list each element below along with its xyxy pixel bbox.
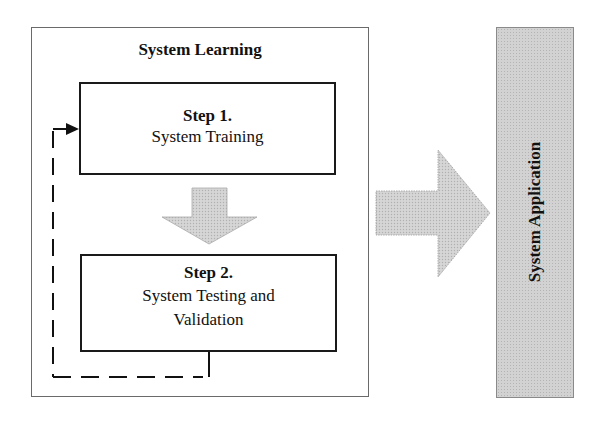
step-2-label-line-2: Validation [82, 308, 335, 332]
step-2-box: Step 2. System Testing and Validation [80, 254, 337, 352]
group-title: System Learning [31, 40, 369, 60]
step-1-box: Step 1. System Training [79, 82, 336, 175]
step-2-number: Step 2. [82, 262, 335, 284]
step-1-number: Step 1. [81, 105, 334, 126]
step-2-label-line-1: System Testing and [82, 284, 335, 308]
step-1-label: System Training [81, 126, 334, 148]
system-application-label: System Application [525, 142, 545, 282]
right-block-arrow-icon [376, 150, 490, 277]
